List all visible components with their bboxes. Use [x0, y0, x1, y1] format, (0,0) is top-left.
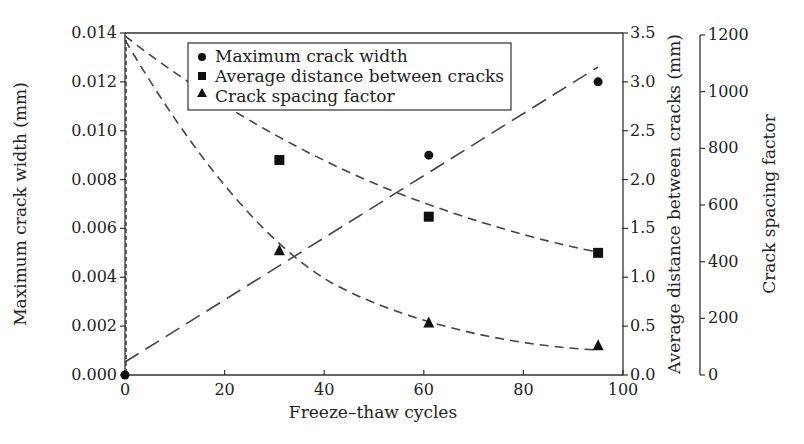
triangle-data-point — [593, 339, 604, 350]
right-tick-label: 1200 — [708, 25, 749, 44]
right-tick-label: 0 — [708, 365, 718, 384]
middle-tick-label: 2.5 — [630, 121, 655, 140]
chart-canvas: 0204060801000.0000.0020.0040.0060.0080.0… — [0, 0, 804, 444]
left-tick-label: 0.000 — [71, 365, 117, 384]
left-tick-label: 0.008 — [71, 170, 117, 189]
legend-circle-icon — [198, 53, 206, 61]
middle-tick-label: 1.0 — [630, 267, 655, 286]
x-tick-label: 80 — [513, 380, 533, 399]
legend-label-spacing-factor: Crack spacing factor — [215, 86, 395, 106]
middle-tick-label: 3.5 — [630, 23, 655, 42]
right-axis-title: Crack spacing factor — [759, 113, 779, 293]
crack-width-fit-line — [125, 67, 598, 362]
x-axis-title: Freeze–thaw cycles — [289, 402, 457, 422]
x-tick-label: 60 — [414, 380, 434, 399]
triangle-data-point — [423, 317, 434, 328]
circle-data-point — [121, 371, 130, 380]
middle-axis-title: Average distance between cracks (mm) — [664, 34, 684, 375]
middle-tick-label: 0.0 — [630, 365, 655, 384]
left-tick-label: 0.002 — [71, 316, 117, 335]
right-tick-label: 600 — [708, 195, 739, 214]
left-tick-label: 0.006 — [71, 218, 117, 237]
middle-tick-label: 1.5 — [630, 218, 655, 237]
legend: Maximum crack width Average distance bet… — [188, 43, 511, 110]
circle-data-point — [594, 77, 603, 86]
x-tick-label: 0 — [120, 380, 130, 399]
data-markers — [121, 77, 604, 379]
left-tick-label: 0.004 — [71, 267, 117, 286]
legend-square-icon — [198, 72, 206, 80]
legend-label-avg-distance: Average distance between cracks — [214, 66, 504, 86]
right-tick-label: 1000 — [708, 82, 749, 101]
square-data-point — [274, 155, 284, 165]
square-data-point — [593, 248, 603, 258]
middle-tick-label: 2.0 — [630, 170, 655, 189]
right-tick-label: 200 — [708, 308, 739, 327]
triangle-data-point — [274, 244, 285, 255]
x-tick-label: 40 — [314, 380, 334, 399]
left-axis-title: Maximum crack width (mm) — [10, 82, 30, 326]
left-tick-label: 0.014 — [71, 23, 117, 42]
right-tick-label: 400 — [708, 252, 739, 271]
middle-tick-label: 0.5 — [630, 316, 655, 335]
square-data-point — [424, 212, 434, 222]
legend-label-max-crack-width: Maximum crack width — [215, 46, 408, 66]
left-tick-label: 0.012 — [71, 72, 117, 91]
x-tick-label: 20 — [214, 380, 234, 399]
right-tick-label: 800 — [708, 138, 739, 157]
left-tick-label: 0.010 — [71, 121, 117, 140]
circle-data-point — [424, 151, 433, 160]
middle-tick-label: 3.0 — [630, 72, 655, 91]
